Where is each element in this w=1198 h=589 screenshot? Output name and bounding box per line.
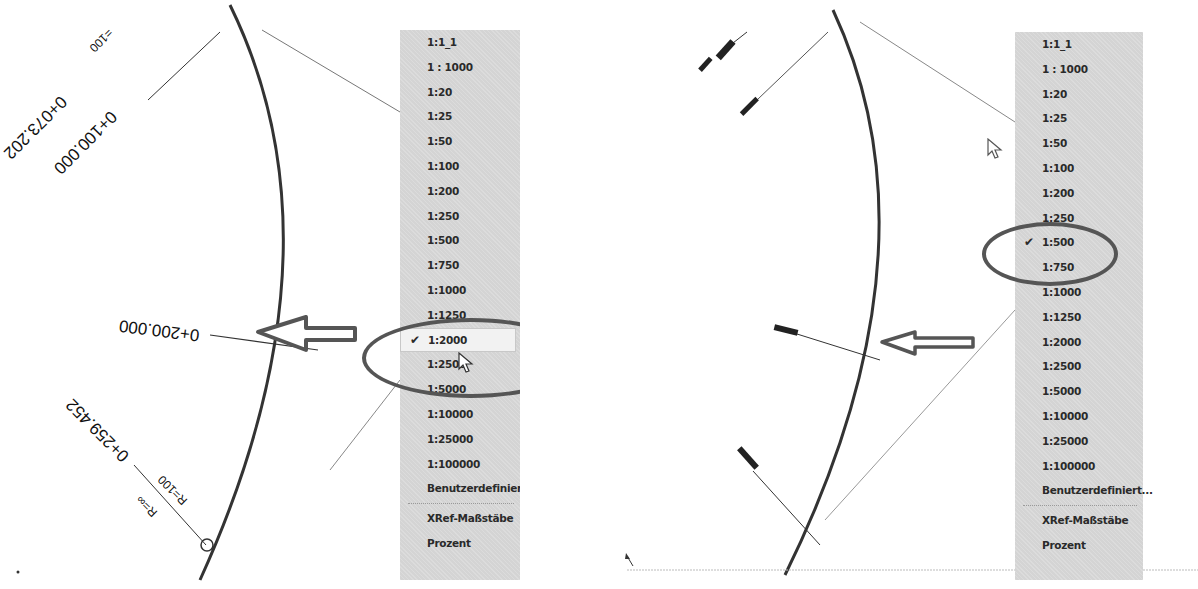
menu-item-label: 1:50 [427,135,452,147]
menu-item-label: 1:1_1 [1042,38,1072,50]
menu-item-scale-1-50[interactable]: 1:50 [1015,131,1143,156]
menu-item-label: 1:25000 [427,433,473,445]
menu-item-label: XRef-Maßstäbe [1042,514,1128,526]
menu-item-scale-1-20[interactable]: 1:20 [1015,82,1143,107]
menu-item-label: 1:10000 [427,408,473,420]
menu-item-label: 1 : 1000 [1042,63,1088,75]
menu-item-label: 1 : 1000 [427,61,473,73]
menu-item-label: 1:2000 [1042,336,1081,348]
menu-item-label: XRef-Maßstäbe [427,512,513,524]
menu-item-scale-1-2000[interactable]: 1:2000 [1015,330,1143,355]
annotation-arrow-icon [882,332,973,354]
menu-item-label: 1:1_1 [427,36,457,48]
mouse-pointer-icon [458,352,474,374]
radius-label-rinf: R=∞ [133,493,160,520]
menu-item-label: 1:200 [427,185,459,197]
menu-item-scale-1-25000[interactable]: 1:25000 [400,427,520,452]
menu-item-custom-scale[interactable]: Benutzerdefiniert... [1015,478,1143,503]
menu-item-scale-1-200[interactable]: 1:200 [400,179,520,204]
right-panel-drawing-view: 1:1_1 1 : 1000 1:20 1:25 1:50 1:100 1:20… [615,0,1198,589]
tiny-station-label [737,446,759,469]
menu-item-scale-1-1-1[interactable]: 1:1_1 [400,30,520,55]
menu-item-scale-1-10000[interactable]: 1:10000 [1015,404,1143,429]
menu-item-label: 1:100000 [427,458,480,470]
menu-item-label: 1:500 [427,234,459,246]
alignment-arc [785,10,879,575]
menu-item-label: 1:250 [427,210,459,222]
menu-item-scale-1-250[interactable]: 1:250 [400,204,520,229]
menu-item-label: 1:50 [1042,137,1067,149]
pi-marker-icon [201,539,213,551]
menu-item-scale-1-750[interactable]: 1:750 [400,253,520,278]
menu-item-xref-scales[interactable]: XRef-Maßstäbe [1015,508,1143,533]
menu-separator [408,503,514,504]
menu-item-scale-1-1-1[interactable]: 1:1_1 [1015,32,1143,57]
menu-item-label: 1:200 [1042,187,1074,199]
radius-label-r100: R=100 [155,472,190,507]
tiny-station-label [716,39,736,60]
scale-list-menu: 1:1_1 1 : 1000 1:20 1:25 1:50 1:100 1:20… [400,30,520,580]
menu-item-label: 1:1000 [427,284,466,296]
tiny-station-label [698,57,712,72]
menu-item-label: 1:25000 [1042,435,1088,447]
mouse-pointer-icon [987,138,1003,160]
radius-label-100-top: =100 [87,26,116,55]
tiny-station-label [774,324,799,336]
menu-item-label: 1:10000 [1042,410,1088,422]
ucs-arrow-icon [625,553,630,559]
menu-item-label: 1:1000 [1042,286,1081,298]
menu-item-xref-scales[interactable]: XRef-Maßstäbe [400,506,520,531]
menu-item-scale-1-1250[interactable]: 1:1250 [1015,305,1143,330]
annotation-arrow-icon [258,317,355,350]
station-label-259: 0+259.452 [62,395,133,466]
menu-item-scale-1-25000[interactable]: 1:25000 [1015,429,1143,454]
station-label-073: 0+073.202 [0,92,71,163]
menu-item-scale-1-1000[interactable]: 1:1000 [400,278,520,303]
menu-item-scale-1-20[interactable]: 1:20 [400,80,520,105]
menu-item-label: 1:100 [427,160,459,172]
menu-item-label: Prozent [427,537,471,549]
menu-item-scale-1-500[interactable]: 1:500 [400,228,520,253]
menu-item-label: 1:5000 [1042,385,1081,397]
menu-item-percent[interactable]: Prozent [1015,533,1143,558]
menu-item-label: 1:2500 [1042,360,1081,372]
station-label-100: 0+100.000 [50,107,121,178]
menu-item-scale-1-1000-spaced[interactable]: 1 : 1000 [400,55,520,80]
menu-item-label: 1:20 [1042,88,1067,100]
menu-item-label: 1:750 [427,259,459,271]
menu-item-scale-1-100000[interactable]: 1:100000 [400,452,520,477]
station-label-200: 0+200.000 [118,316,201,345]
menu-item-label: 1:100000 [1042,460,1095,472]
tiny-station-label [740,97,759,116]
menu-item-scale-1-100[interactable]: 1:100 [400,154,520,179]
menu-item-label: Prozent [1042,539,1086,551]
highlight-ellipse-annotation [982,222,1118,286]
menu-item-scale-1-25[interactable]: 1:25 [400,104,520,129]
menu-item-scale-1-25[interactable]: 1:25 [1015,106,1143,131]
menu-separator [1023,505,1137,506]
tangent-line-bottom [330,380,400,470]
menu-item-scale-1-5000[interactable]: 1:5000 [1015,379,1143,404]
menu-item-scale-1-100[interactable]: 1:100 [1015,156,1143,181]
menu-item-scale-1-2500[interactable]: 1:2500 [1015,354,1143,379]
menu-item-label: Benutzerdefiniert... [1042,484,1153,496]
menu-item-label: Benutzerdefiniert... [427,482,520,494]
left-panel-drawing-view: 0+100.000 0+073.202 =100 0+200.000 0+259… [0,0,520,589]
scale-list-menu: 1:1_1 1 : 1000 1:20 1:25 1:50 1:100 1:20… [1015,32,1143,580]
alignment-arc [200,5,283,580]
menu-item-label: 1:1250 [1042,311,1081,323]
menu-item-label: 1:100 [1042,162,1074,174]
menu-item-label: 1:25 [427,110,452,122]
station-tick-100 [148,32,220,100]
menu-item-scale-1-1000-spaced[interactable]: 1 : 1000 [1015,57,1143,82]
menu-item-custom-scale[interactable]: Benutzerdefiniert... [400,476,520,501]
menu-item-label: 1:20 [427,86,452,98]
menu-item-percent[interactable]: Prozent [400,531,520,556]
menu-item-scale-1-50[interactable]: 1:50 [400,129,520,154]
menu-item-scale-1-200[interactable]: 1:200 [1015,181,1143,206]
menu-item-label: 1:25 [1042,112,1067,124]
menu-item-scale-1-100000[interactable]: 1:100000 [1015,454,1143,479]
menu-item-scale-1-10000[interactable]: 1:10000 [400,402,520,427]
tangent-line-top [262,30,400,112]
tangent-line-top [860,22,1015,122]
